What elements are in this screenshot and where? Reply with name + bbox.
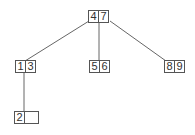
left-child-key-2 [24,111,39,124]
middle-key-2: 6 [99,60,110,73]
left-node: 1 3 [15,60,36,72]
edge-root-left [25,21,89,61]
edge-root-right [110,21,166,61]
middle-node: 5 6 [89,60,110,72]
left-key-2: 3 [25,60,36,73]
right-node: 8 9 [164,60,185,72]
root-key-2: 7 [98,10,109,23]
right-key-2: 9 [174,60,185,73]
root-node: 4 7 [88,10,109,22]
left-child-node: 2 [14,111,39,123]
